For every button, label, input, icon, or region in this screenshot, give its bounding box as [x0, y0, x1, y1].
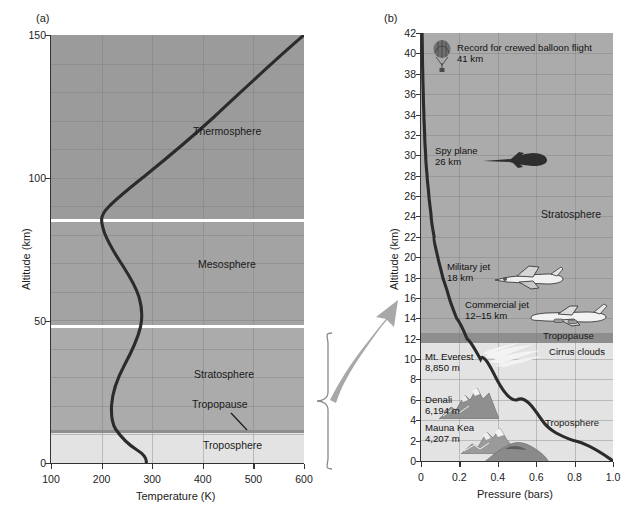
panel-b-ytickmark — [416, 53, 421, 54]
panel-b-xtick-1.0: 1.0 — [598, 471, 628, 483]
annotation-cirrus-clouds: Cirrus clouds — [549, 346, 605, 357]
annotation-spy-plane-label: Spy plane — [435, 145, 478, 156]
panel-a-x-axis-title: Temperature (K) — [136, 490, 215, 502]
annotation-balloon-value: 41 km — [457, 53, 592, 64]
panel-b-ytick-8: 8 — [392, 373, 416, 385]
panel-b-ytickmark — [416, 379, 421, 380]
panel-b-tag: (b) — [384, 12, 397, 24]
panel-b-ytickmark — [416, 318, 421, 319]
panel-b-ytick-26: 26 — [392, 190, 416, 202]
panel-a-xtickmark — [152, 464, 153, 469]
annotation-mt-everest-label: Mt. Everest — [425, 351, 474, 362]
panel-a-ytickmark — [45, 35, 51, 36]
panel-b-xtickmark — [498, 462, 499, 467]
panel-a-ytick-50: 50 — [20, 315, 46, 327]
panel-b-ytick-18: 18 — [392, 272, 416, 284]
panel-b-ytickmark — [416, 196, 421, 197]
panel-b-ytickmark — [416, 176, 421, 177]
annotation-spy-plane: Spy plane 26 km — [435, 145, 478, 168]
panel-b-ytick-16: 16 — [392, 292, 416, 304]
panel-b-ytick-10: 10 — [392, 353, 416, 365]
panel-a-xtick-200: 200 — [87, 473, 117, 485]
panel-b-ytickmark — [416, 94, 421, 95]
tropopause-leader-line — [51, 35, 304, 463]
panel-b-ytickmark — [416, 339, 421, 340]
annotation-mt-everest: Mt. Everest 8,850 m — [425, 351, 474, 374]
annotation-denali: Denali 6,194 m — [425, 394, 460, 417]
layer-label-stratosphere: Stratosphere — [541, 208, 601, 220]
panel-a-xtickmark — [253, 464, 254, 469]
panel-b-ytick-36: 36 — [392, 88, 416, 100]
panel-b-ytick-22: 22 — [392, 231, 416, 243]
panel-b-xtick-0: 0 — [406, 471, 436, 483]
annotation-mauna-kea-label: Mauna Kea — [425, 422, 474, 433]
panel-a-xtickmark — [51, 464, 52, 469]
annotation-military-jet-value: 18 km — [447, 272, 490, 283]
panel-b-xtick-0.6: 0.6 — [521, 471, 551, 483]
panel-a-ytick-100: 100 — [20, 172, 46, 184]
annotation-commercial-jet-label: Commercial jet — [465, 299, 529, 310]
panel-a-xtick-600: 600 — [289, 473, 319, 485]
panel-b-xtick-0.2: 0.2 — [444, 471, 474, 483]
panel-b-ytick-38: 38 — [392, 68, 416, 80]
panel-a-ytickmark — [45, 321, 51, 322]
layer-label-tropopause: Tropopause — [543, 330, 594, 341]
panel-a-tag: (a) — [36, 12, 49, 24]
panel-b-ytickmark — [416, 400, 421, 401]
panel-b-ytick-40: 40 — [392, 47, 416, 59]
panel-b-ytickmark — [416, 33, 421, 34]
panel-a-xtick-300: 300 — [137, 473, 167, 485]
annotation-commercial-jet: Commercial jet 12–15 km — [465, 299, 529, 322]
panel-a-ytickmark — [45, 178, 51, 179]
panel-a-ytick-0: 0 — [20, 457, 46, 469]
panel-b-ytick-2: 2 — [392, 435, 416, 447]
annotation-military-jet: Military jet 18 km — [447, 261, 490, 284]
panel-a-xtick-400: 400 — [188, 473, 218, 485]
annotation-spy-plane-value: 26 km — [435, 156, 478, 167]
panel-a-y-axis-line — [50, 35, 51, 464]
panel-a: (a) Altitude (km) 150 100 50 0 — [0, 0, 330, 515]
panel-b-ytickmark — [416, 155, 421, 156]
panel-b-y-axis-line — [420, 33, 421, 462]
panel-a-ytick-150: 150 — [20, 29, 46, 41]
panel-a-plot-area: Thermosphere Mesosphere Stratosphere Tro… — [51, 35, 304, 463]
panel-b-ytick-24: 24 — [392, 210, 416, 222]
annotation-mauna-kea-value: 4,207 m — [425, 433, 474, 444]
panel-b-ytickmark — [416, 216, 421, 217]
panel-b-xtickmark — [536, 462, 537, 467]
panel-b: (b) Altitude (km) — [380, 0, 633, 515]
panel-b-ytickmark — [416, 135, 421, 136]
panel-b-ytick-0: 0 — [392, 455, 416, 467]
panel-b-plot-area: Record for crewed balloon flight 41 km S… — [421, 33, 613, 461]
panel-b-ytick-30: 30 — [392, 149, 416, 161]
panel-b-x-axis-line — [421, 461, 613, 462]
panel-a-x-axis-line — [51, 463, 304, 464]
annotation-denali-value: 6,194 m — [425, 405, 460, 416]
panel-b-xtickmark — [613, 462, 614, 467]
panel-b-xtickmark — [575, 462, 576, 467]
panel-b-ytick-6: 6 — [392, 394, 416, 406]
annotation-mt-everest-value: 8,850 m — [425, 362, 474, 373]
panel-b-ytickmark — [416, 298, 421, 299]
annotation-balloon-label: Record for crewed balloon flight — [457, 42, 592, 53]
panel-b-ytickmark — [416, 420, 421, 421]
panel-b-xtick-0.4: 0.4 — [483, 471, 513, 483]
annotation-military-jet-label: Military jet — [447, 261, 490, 272]
panel-b-ytick-28: 28 — [392, 170, 416, 182]
panel-b-ytick-4: 4 — [392, 414, 416, 426]
panel-a-xtickmark — [203, 464, 204, 469]
panel-b-ytick-32: 32 — [392, 129, 416, 141]
panel-a-y-axis-title: Altitude (km) — [20, 228, 32, 290]
panel-b-xtickmark — [421, 462, 422, 467]
panel-b-xtickmark — [459, 462, 460, 467]
annotation-balloon: Record for crewed balloon flight 41 km — [457, 42, 592, 65]
panel-b-ytickmark — [416, 278, 421, 279]
panel-b-ytickmark — [416, 359, 421, 360]
panel-b-xtick-0.8: 0.8 — [560, 471, 590, 483]
panel-b-ytickmark — [416, 115, 421, 116]
panel-a-xtick-100: 100 — [36, 473, 66, 485]
annotation-denali-label: Denali — [425, 394, 460, 405]
panel-a-xtickmark — [304, 464, 305, 469]
panel-b-ytick-12: 12 — [392, 333, 416, 345]
panel-a-xtickmark — [102, 464, 103, 469]
